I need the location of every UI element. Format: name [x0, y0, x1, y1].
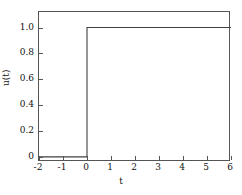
y-axis-label: u(t) — [2, 70, 11, 86]
x-tick — [135, 156, 136, 160]
y-tick-label: 0.6 — [20, 74, 34, 83]
x-tick — [87, 156, 88, 160]
x-tick — [183, 156, 184, 160]
x-tick — [63, 156, 64, 160]
x-tick-label: -2 — [34, 163, 43, 172]
x-tick-label: 3 — [155, 163, 161, 172]
y-tick — [39, 131, 43, 132]
x-tick — [231, 156, 232, 160]
x-tick-label: 2 — [131, 163, 137, 172]
y-tick — [39, 79, 43, 80]
y-tick-label: 0.2 — [20, 125, 34, 134]
plot-frame — [38, 11, 230, 161]
x-tick-label: 5 — [203, 163, 209, 172]
x-axis-label: t — [0, 177, 242, 186]
x-tick-label: 0 — [83, 163, 89, 172]
y-tick — [39, 53, 43, 54]
x-tick — [207, 156, 208, 160]
x-tick — [111, 156, 112, 160]
y-tick — [39, 28, 43, 29]
x-tick-label: 1 — [107, 163, 113, 172]
step-function-line — [39, 12, 231, 162]
y-tick — [39, 105, 43, 106]
x-tick-label: 4 — [179, 163, 185, 172]
y-tick-label: 0.8 — [20, 48, 34, 57]
y-tick-label: 1.0 — [20, 22, 34, 31]
y-tick — [39, 157, 43, 158]
figure-canvas: -2-10123456 00.20.40.60.81.0 t u(t) — [0, 0, 242, 195]
x-tick-label: -1 — [58, 163, 67, 172]
y-tick-label: 0 — [28, 151, 34, 160]
plot-inner — [39, 12, 229, 160]
series-path — [39, 28, 231, 157]
x-tick — [159, 156, 160, 160]
x-tick-label: 6 — [227, 163, 233, 172]
y-tick-label: 0.4 — [20, 100, 34, 109]
